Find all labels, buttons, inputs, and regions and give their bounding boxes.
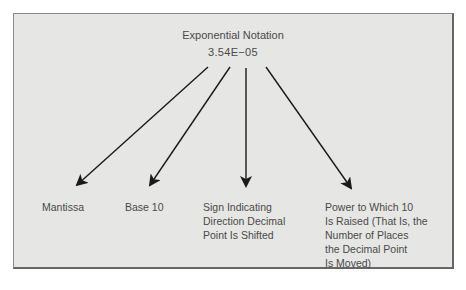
label-mantissa: Mantissa: [42, 200, 84, 214]
arrow-to-mantissa-icon: [77, 67, 208, 185]
label-power: Power to Which 10 Is Raised (That Is, th…: [325, 200, 428, 270]
label-base: Base 10: [125, 200, 164, 214]
arrow-to-base-icon: [150, 67, 230, 185]
label-sign: Sign Indicating Direction Decimal Point …: [203, 200, 285, 242]
arrow-to-power-icon: [266, 67, 351, 188]
